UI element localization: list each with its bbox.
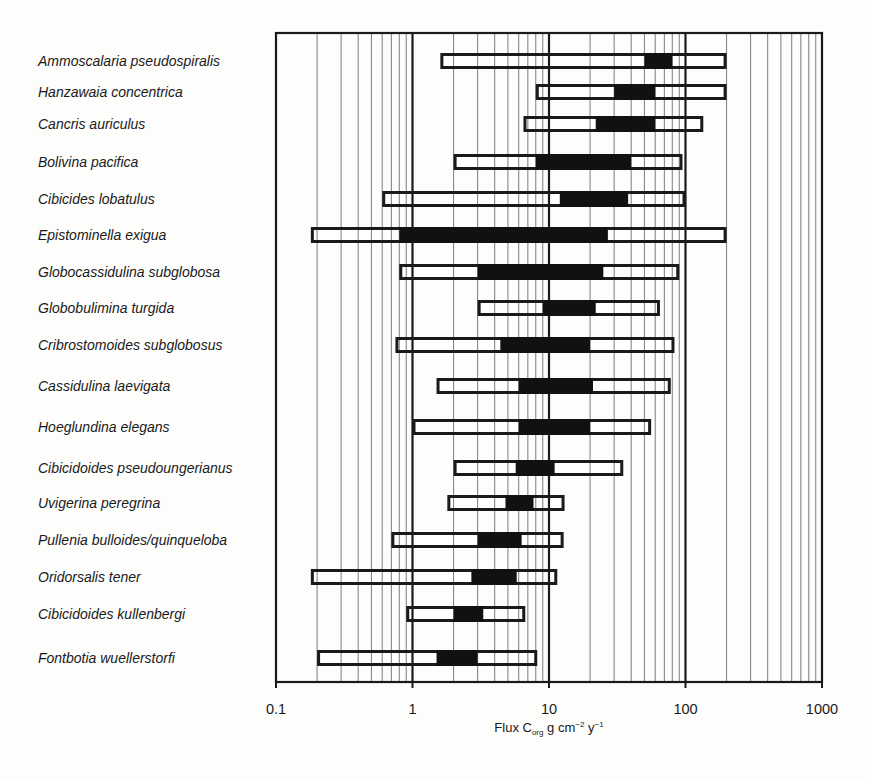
species-label: Globobulimina turgida <box>38 300 174 316</box>
preferred-range <box>454 606 484 622</box>
range-bar <box>478 300 660 316</box>
range-bar <box>454 460 624 476</box>
total-range-interior <box>320 653 534 663</box>
species-label: Cribrostomoides subglobosus <box>38 337 222 353</box>
species-label: Uvigerina peregrina <box>38 495 160 511</box>
range-bar <box>536 84 727 100</box>
preferred-range <box>478 264 604 280</box>
species-label: Cancris auriculus <box>38 116 145 132</box>
preferred-range <box>519 419 590 435</box>
species-labels: Ammoscalaria pseudospiralisHanzawaia con… <box>37 53 233 666</box>
species-label: Ammoscalaria pseudospiralis <box>37 53 220 69</box>
species-label: Cibicidoides pseudoungerianus <box>38 460 233 476</box>
species-label: Fontbotia wuellerstorfi <box>38 650 176 666</box>
preferred-range <box>500 337 590 353</box>
species-label: Hoeglundina elegans <box>38 419 170 435</box>
x-tick-label: 100 <box>673 701 697 717</box>
species-label: Bolivina pacifica <box>38 154 139 170</box>
range-bar <box>413 419 652 435</box>
preferred-range <box>437 650 478 666</box>
x-tick-label: 1000 <box>806 701 838 717</box>
species-label: Oridorsalis tener <box>38 569 142 585</box>
preferred-range <box>471 569 516 585</box>
range-bar <box>406 606 525 622</box>
preferred-range <box>399 227 608 243</box>
preferred-range <box>543 300 596 316</box>
preferred-range <box>644 53 672 69</box>
preferred-range <box>516 460 555 476</box>
range-bar <box>437 378 671 394</box>
x-axis-title: Flux Corg g cm−2 y−1 <box>494 720 604 737</box>
range-bar <box>440 53 726 69</box>
x-axis-tick-labels: 0.11101001000 <box>266 701 838 717</box>
x-tick-label: 10 <box>541 701 557 717</box>
range-bar <box>399 264 679 280</box>
species-label: Cassidulina laevigata <box>38 378 171 394</box>
range-bar <box>391 532 563 548</box>
range-bar <box>317 650 537 666</box>
species-label: Epistominella exigua <box>38 227 167 243</box>
preferred-range <box>596 116 655 132</box>
preferred-range <box>505 495 533 511</box>
range-bar <box>454 154 683 170</box>
preferred-range <box>478 532 522 548</box>
preferred-range <box>614 84 655 100</box>
total-range-interior <box>314 572 554 582</box>
preferred-range <box>519 378 593 394</box>
x-tick-label: 1 <box>408 701 416 717</box>
preferred-range <box>560 191 628 207</box>
species-label: Hanzawaia concentrica <box>38 84 183 100</box>
total-range-interior <box>385 194 682 204</box>
species-label: Globocassidulina subglobosa <box>38 264 220 280</box>
range-bar <box>311 227 727 243</box>
x-tick-label: 0.1 <box>266 701 286 717</box>
range-bar <box>311 569 557 585</box>
total-range-interior <box>443 56 723 66</box>
species-label: Cibicides lobatulus <box>38 191 155 207</box>
range-bar <box>447 495 564 511</box>
species-label: Pullenia bulloides/quinqueloba <box>38 532 227 548</box>
preferred-range <box>536 154 631 170</box>
flux-range-chart: Ammoscalaria pseudospiralisHanzawaia con… <box>0 0 870 780</box>
range-bar <box>523 116 703 132</box>
species-label: Cibicidoides kullenbergi <box>38 606 186 622</box>
range-bar <box>382 191 685 207</box>
range-bar <box>395 337 674 353</box>
